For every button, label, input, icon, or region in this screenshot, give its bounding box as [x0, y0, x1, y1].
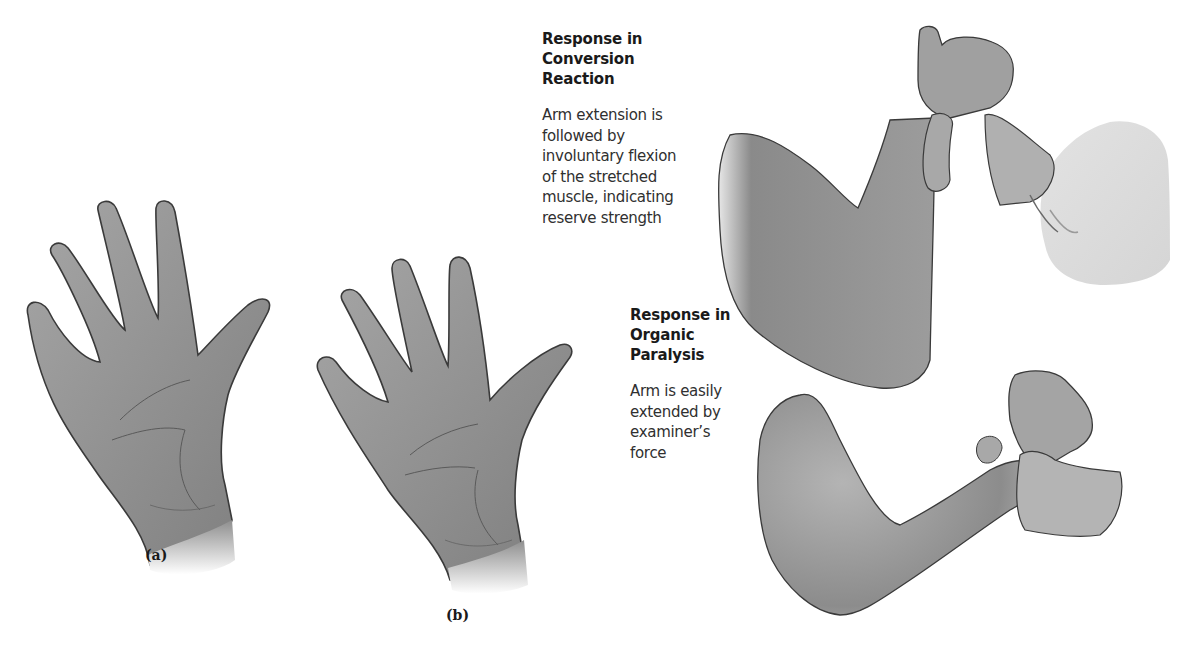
- heading-line: Organic: [630, 325, 760, 345]
- heading-line: Paralysis: [630, 345, 760, 365]
- hand-b-illustration: [317, 257, 571, 594]
- body-line: force: [630, 443, 760, 464]
- panel-label-a: (a): [145, 547, 167, 563]
- heading-line: Conversion: [542, 49, 722, 69]
- heading-line: Response in: [630, 305, 760, 325]
- body-line: reserve strength: [542, 208, 722, 229]
- body-line: Arm extension is: [542, 105, 722, 126]
- body-line: muscle, indicating: [542, 187, 722, 208]
- arm-paralysis-illustration: [758, 371, 1122, 615]
- heading-line: Response in: [542, 29, 722, 49]
- panel-label-b: (b): [446, 607, 469, 623]
- conversion-heading: Response in Conversion Reaction: [542, 29, 722, 89]
- paralysis-heading: Response in Organic Paralysis: [630, 305, 760, 365]
- paralysis-description: Arm is easily extended by examiner’s for…: [630, 381, 760, 463]
- conversion-description: Arm extension is followed by involuntary…: [542, 105, 722, 228]
- heading-line: Reaction: [542, 69, 722, 89]
- figure-page: Response in Conversion Reaction Arm exte…: [0, 0, 1196, 667]
- body-line: followed by: [542, 126, 722, 147]
- body-line: Arm is easily: [630, 381, 760, 402]
- caption-organic-paralysis: Response in Organic Paralysis Arm is eas…: [630, 305, 760, 463]
- body-line: extended by: [630, 402, 760, 423]
- body-line: of the stretched: [542, 167, 722, 188]
- hand-a-illustration: [27, 201, 269, 574]
- body-line: involuntary flexion: [542, 146, 722, 167]
- arm-conversion-illustration: [719, 26, 1170, 388]
- caption-conversion-reaction: Response in Conversion Reaction Arm exte…: [542, 29, 722, 228]
- body-line: examiner’s: [630, 422, 760, 443]
